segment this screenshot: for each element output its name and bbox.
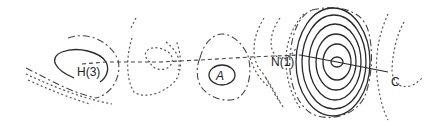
right-negative-contours xyxy=(376,14,422,120)
negative-contour-left xyxy=(128,38,181,95)
label-c: C xyxy=(391,75,400,89)
h3-to-n1-dashed-line xyxy=(82,55,300,64)
label-h3: H(3) xyxy=(77,65,100,79)
c-concentric-contours xyxy=(286,8,371,118)
contour-diagram: H(3) A N(1) C xyxy=(0,0,433,127)
label-a: A xyxy=(215,69,224,83)
negative-region-contours xyxy=(128,38,181,95)
h3-contours xyxy=(26,18,136,104)
small-negative-loop xyxy=(145,48,172,70)
a-zero-contour xyxy=(197,34,250,100)
a-contours xyxy=(197,34,250,100)
negative-contour-mid xyxy=(166,42,179,70)
h3-lower-tail-3 xyxy=(28,80,90,104)
label-n1: N(1) xyxy=(271,55,294,69)
n1-to-c-bond xyxy=(300,55,388,72)
right-negative-contour-1 xyxy=(376,14,388,120)
n1-negative-contour-4 xyxy=(250,58,268,86)
h3-upper-dot xyxy=(130,18,136,30)
